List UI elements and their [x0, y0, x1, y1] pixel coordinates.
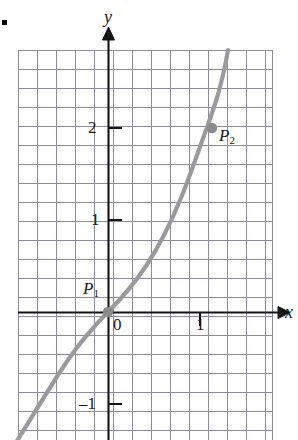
point-label-p2: P2: [219, 127, 235, 146]
plot-canvas: [0, 0, 298, 440]
point-label-p2-subscript: 2: [229, 134, 235, 146]
x-axis-label: x: [285, 303, 293, 321]
origin-label: 0: [113, 316, 122, 333]
x-tick-label-1: 1: [196, 316, 205, 333]
y-axis-label: y: [104, 8, 112, 26]
point-label-p2-letter: P: [219, 126, 229, 145]
y-tick-label-2: 2: [88, 119, 97, 136]
point-label-p1-subscript: 1: [93, 287, 99, 299]
y-axis-arrowhead: [103, 27, 115, 40]
y-tick-label-neg-1: –1: [79, 395, 96, 412]
tick-marks: [108, 128, 200, 404]
point-p1-marker: [103, 307, 113, 317]
point-p2-marker: [207, 123, 217, 133]
function-curve: [17, 50, 228, 440]
point-label-p1-letter: P: [83, 279, 93, 298]
y-tick-label-1: 1: [91, 211, 100, 228]
point-label-p1: P1: [83, 280, 99, 299]
graph-figure: y x 2 1 0 –1 1 P1 P2: [0, 0, 298, 440]
